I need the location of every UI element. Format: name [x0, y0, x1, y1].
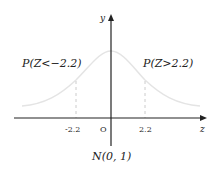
right-tail-probability: P(Z>2.2) — [142, 57, 193, 70]
normal-distribution-diagram: y z O -2.2 2.2 P(Z<−2.2) P(Z>2.2) N(0, 1… — [0, 0, 217, 172]
distribution-label: N(0, 1) — [91, 150, 131, 163]
origin-label: O — [100, 125, 107, 134]
left-tail-probability: P(Z<−2.2) — [21, 57, 82, 70]
tick-label-neg: -2.2 — [65, 125, 80, 134]
x-axis-arrow-icon — [200, 115, 207, 121]
x-axis-label: z — [199, 124, 205, 134]
tick-label-pos: 2.2 — [139, 125, 152, 134]
y-axis-label: y — [99, 13, 106, 23]
y-axis-arrow-icon — [108, 14, 114, 21]
